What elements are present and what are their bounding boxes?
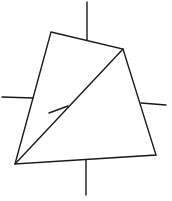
- right-axis-stub: [141, 103, 166, 105]
- diagonal-tick-mark: [49, 106, 68, 113]
- left-axis-stub: [2, 97, 33, 98]
- diagram-canvas: [0, 0, 172, 201]
- quadrilateral-outline: [15, 32, 156, 164]
- quadrilateral-diagram: [0, 0, 172, 201]
